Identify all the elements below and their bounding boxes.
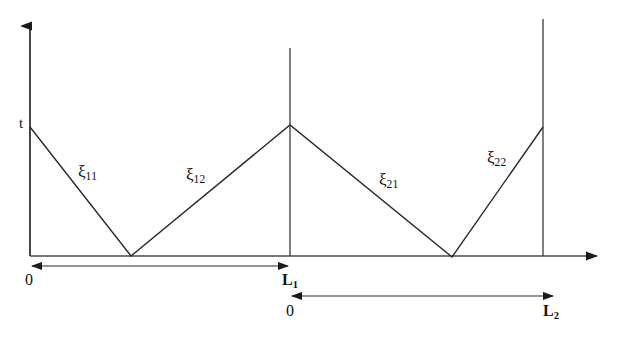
segment-label-xi-11: ξ11 — [78, 163, 97, 183]
segment-label-xi-12: ξ12 — [186, 166, 206, 186]
segment-symbol-xi-12: ξ — [186, 165, 194, 184]
length-label-l2: L2 — [543, 303, 559, 322]
axis-label-t: t — [19, 116, 23, 131]
segment-subscript-xi-22: 22 — [495, 156, 507, 169]
segment-symbol-xi-21: ξ — [379, 170, 387, 189]
length-label-l1: L1 — [282, 272, 298, 291]
segment-subscript-xi-12: 12 — [194, 173, 206, 186]
origin-label-right: 0 — [286, 303, 294, 319]
length-label-l2-base: L — [543, 302, 554, 319]
segment-symbol-xi-11: ξ — [78, 162, 86, 181]
segment-subscript-xi-21: 21 — [387, 178, 399, 191]
figure-canvas: t ξ11 ξ12 ξ21 ξ22 0 L1 0 L2 — [0, 0, 636, 339]
zigzag-path — [30, 125, 543, 257]
length-label-l1-base: L — [282, 271, 293, 288]
segment-subscript-xi-11: 11 — [86, 170, 98, 183]
segment-label-xi-21: ξ21 — [379, 171, 399, 191]
origin-label-left: 0 — [25, 272, 33, 288]
length-label-l2-subscript: 2 — [554, 310, 559, 321]
segment-label-xi-22: ξ22 — [487, 149, 507, 169]
length-label-l1-subscript: 1 — [293, 279, 298, 290]
segment-symbol-xi-22: ξ — [487, 148, 495, 167]
